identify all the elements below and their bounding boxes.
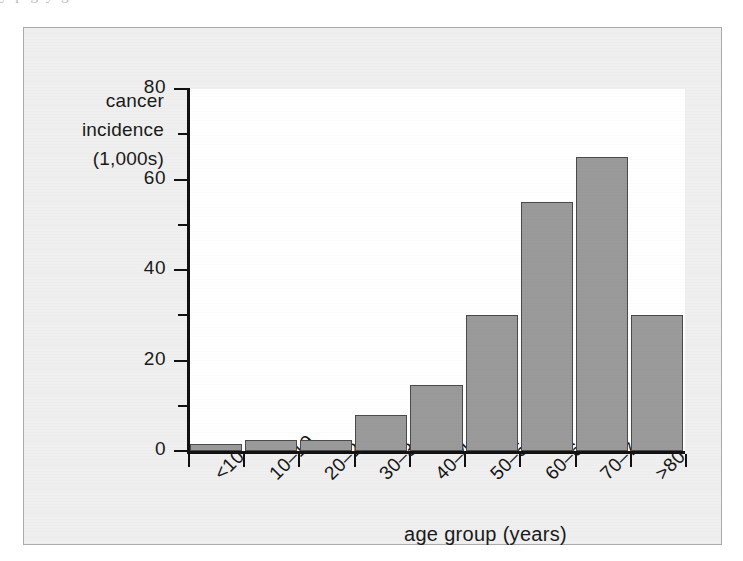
y-axis-major-tick — [174, 450, 188, 452]
y-axis-major-tick — [174, 360, 188, 362]
figure-plate: cancer incidence (1,000s) 020406080 <101… — [23, 27, 722, 545]
bar — [631, 315, 683, 451]
page-text-fragment-text: y p g y g — [0, 0, 71, 4]
x-axis-tick — [685, 454, 687, 467]
y-axis-major-tick — [174, 269, 188, 271]
bars-layer — [188, 89, 685, 451]
x-axis-line — [187, 451, 685, 454]
bar — [576, 157, 628, 451]
page-text-fragment-above-figure: y p g y g — [0, 0, 743, 22]
bar — [521, 202, 573, 451]
y-axis-tick-label: 60 — [126, 167, 166, 189]
x-axis-tick — [630, 454, 632, 467]
bar — [410, 385, 462, 451]
bar — [355, 415, 407, 451]
y-axis-minor-tick — [178, 314, 188, 316]
y-axis-tick-label: 80 — [126, 76, 166, 98]
bar — [300, 440, 352, 451]
bar — [245, 440, 297, 451]
y-axis-tick-label: 0 — [126, 438, 166, 460]
x-axis-tick — [188, 454, 190, 467]
y-axis-major-tick — [174, 179, 188, 181]
y-axis-major-tick — [174, 88, 188, 90]
x-axis-title: age group (years) — [404, 523, 567, 546]
bar — [190, 444, 242, 451]
y-axis-tick-label: 40 — [126, 257, 166, 279]
y-axis-tick-labels: 020406080 — [120, 28, 166, 544]
x-axis-tick — [243, 454, 245, 467]
x-axis-tick — [409, 454, 411, 467]
x-axis-tick — [575, 454, 577, 467]
x-axis-tick — [354, 454, 356, 467]
y-axis-minor-tick — [178, 133, 188, 135]
y-axis-minor-tick — [178, 405, 188, 407]
x-axis-tick — [298, 454, 300, 467]
y-axis-tick-label: 20 — [126, 348, 166, 370]
x-axis-tick — [519, 454, 521, 467]
x-axis-tick — [464, 454, 466, 467]
y-axis-minor-tick — [178, 224, 188, 226]
bar — [466, 315, 518, 451]
